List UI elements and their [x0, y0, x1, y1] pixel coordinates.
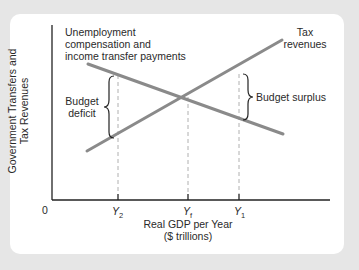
x-axis-label-line2: ($ trillions): [138, 230, 238, 242]
surplus-brace: [243, 74, 253, 120]
x-axis-label-line1: Real GDP per Year: [138, 218, 238, 230]
y2-letter: Y: [112, 205, 119, 217]
deficit-label-line2: deficit: [62, 107, 102, 119]
deficit-label-line1: Budget: [62, 95, 102, 107]
y-axis-label: Government Transfers and Tax Revenues: [6, 26, 30, 196]
y-axis-label-line1: Government Transfers and: [6, 26, 18, 196]
budget-surplus-label: Budget surplus: [256, 91, 326, 103]
budget-deficit-label: Budget deficit: [62, 95, 102, 119]
y-axis-label-line2: Tax Revenues: [18, 26, 30, 196]
transfers-label: Unemployment compensation and income tra…: [65, 26, 186, 62]
y1-subscript: 1: [241, 211, 245, 220]
transfers-label-line2: compensation and: [65, 38, 186, 50]
x-axis-label: Real GDP per Year ($ trillions): [138, 218, 238, 242]
tax-label-line1: Tax: [275, 26, 335, 38]
tax-label-line2: revenues: [275, 38, 335, 50]
origin-label: 0: [42, 204, 48, 216]
transfers-line: [88, 64, 283, 134]
tax-revenues-label: Tax revenues: [275, 26, 335, 50]
deficit-brace: [104, 76, 114, 138]
yf-letter: Y: [183, 205, 190, 217]
y2-tick-label: Y2: [112, 205, 123, 220]
transfers-label-line1: Unemployment: [65, 26, 186, 38]
y1-letter: Y: [234, 205, 241, 217]
transfers-label-line3: income transfer payments: [65, 50, 186, 62]
y2-subscript: 2: [119, 211, 123, 220]
